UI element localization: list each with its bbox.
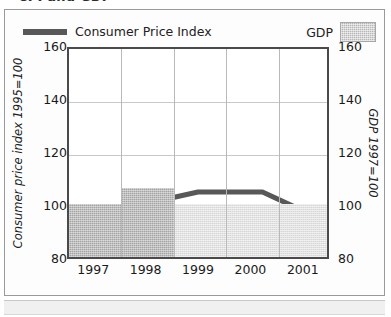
y-tick-left-120: 120 <box>43 147 67 160</box>
legend-label-gdp: GDP <box>306 25 333 40</box>
y-tick-left-140: 140 <box>43 94 67 107</box>
y-tick-left-160: 160 <box>43 41 67 54</box>
gdp-bar <box>279 204 329 257</box>
gridline-horizontal <box>69 155 327 156</box>
page-title: CPI and GDP <box>18 0 111 4</box>
y-axis-left-ticks: 16014012010080 <box>23 10 67 295</box>
gdp-bar <box>69 204 121 257</box>
gridline-vertical <box>226 49 227 257</box>
gdp-bar <box>226 204 278 257</box>
y-tick-left-100: 100 <box>43 200 67 213</box>
y-tick-left-80: 80 <box>51 253 67 266</box>
legend-label-cpi: Consumer Price Index <box>75 24 212 39</box>
gdp-bar <box>174 204 226 257</box>
y-tick-right-160: 160 <box>338 41 362 54</box>
x-tick-1997: 1997 <box>67 262 119 282</box>
gdp-bar <box>121 188 173 257</box>
plot-area <box>67 47 329 259</box>
gridline-vertical <box>279 49 280 257</box>
y-tick-right-80: 80 <box>338 253 354 266</box>
y-tick-right-120: 120 <box>338 147 362 160</box>
gridline-horizontal <box>69 102 327 103</box>
gridline-vertical <box>121 49 122 257</box>
y-axis-right-ticks: 16014012010080 <box>338 10 382 295</box>
gridline-vertical <box>174 49 175 257</box>
x-tick-2000: 2000 <box>224 262 276 282</box>
y-tick-right-100: 100 <box>338 200 362 213</box>
x-tick-2001: 2001 <box>277 262 329 282</box>
x-tick-1999: 1999 <box>172 262 224 282</box>
y-tick-right-140: 140 <box>338 94 362 107</box>
scan-artifact-band <box>4 300 385 315</box>
x-axis-labels: 19971998199920002001 <box>67 262 329 282</box>
figure-container: Consumer Price Index GDP Consumer price … <box>4 9 385 296</box>
x-tick-1998: 1998 <box>119 262 171 282</box>
clipped-title: CPI and GDP <box>0 0 391 7</box>
